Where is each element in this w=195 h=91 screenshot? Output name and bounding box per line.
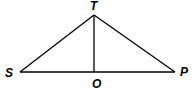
- label-t: T: [90, 0, 97, 12]
- segment-tp: [94, 15, 175, 72]
- segment-st: [20, 15, 94, 72]
- label-p: P: [180, 66, 188, 78]
- label-s: S: [5, 67, 13, 79]
- label-o: O: [92, 78, 101, 90]
